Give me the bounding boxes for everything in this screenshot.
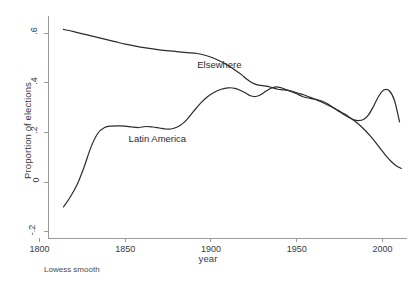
y-tick-label: 0 — [12, 175, 38, 185]
x-tick-label: 2000 — [357, 244, 407, 254]
series-line — [63, 29, 401, 168]
y-tick-label: .6 — [12, 26, 38, 36]
x-tick-label: 1950 — [272, 244, 322, 254]
series-annotation: Latin America — [129, 133, 187, 144]
series-annotation: Elsewhere — [197, 59, 241, 70]
series-line — [63, 87, 399, 207]
x-tick-label: 1900 — [186, 244, 236, 254]
data-series — [63, 29, 401, 207]
y-tick-label: .4 — [12, 76, 38, 86]
x-axis-title: year — [0, 253, 416, 264]
chart-figure: Proportion of elections year -.20.2.4.6 … — [0, 0, 416, 292]
x-tick-label: 1800 — [14, 244, 64, 254]
x-tick-label: 1850 — [100, 244, 150, 254]
figure-note: Lowess smooth — [44, 265, 100, 274]
axes — [39, 16, 407, 242]
y-tick-label: .2 — [12, 125, 38, 135]
y-tick-label: -.2 — [12, 225, 38, 235]
